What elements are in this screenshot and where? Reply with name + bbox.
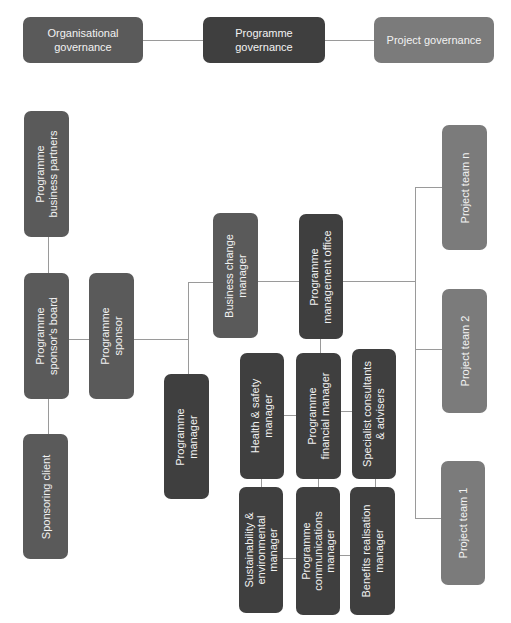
programme-sponsors-board-box: Programme sponsor's board (24, 273, 69, 399)
sponsoring-client-label: Sponsoring client (39, 454, 52, 538)
connector-programme-project-governance (325, 40, 374, 41)
connector-financial-comms (318, 479, 319, 487)
connector-comms-benefits (340, 555, 350, 556)
connector-board-sponsor (69, 339, 89, 340)
programme-governance-box: Programme governance (203, 17, 325, 63)
project-team-n-label: Project team n (458, 152, 471, 223)
programme-financial-manager-box: Programme financial manager (296, 353, 341, 479)
specialist-consultants-label: Specialist consultants & advisers (361, 361, 387, 467)
project-team-2-box: Project team 2 (442, 289, 487, 413)
connector-board-client (48, 399, 49, 434)
programme-management-office-label: Programme management office (308, 230, 334, 323)
programme-manager-label: Programme manager (174, 408, 200, 465)
connector-projects-vertical (415, 187, 416, 518)
programme-financial-manager-label: Programme financial manager (306, 373, 332, 460)
connector-team-n (415, 187, 442, 188)
programme-communications-manager-label: Programme communications manager (300, 511, 336, 590)
specialist-consultants-box: Specialist consultants & advisers (352, 349, 396, 479)
connector-sustainability-comms (283, 558, 296, 559)
connector-team-2 (415, 349, 442, 350)
sustainability-manager-label: Sustainability & environmental manager (243, 512, 279, 587)
project-governance-box: Project governance (374, 17, 494, 63)
project-governance-label: Project governance (383, 33, 486, 47)
programme-sponsor-label: Programme sponsor (99, 307, 125, 364)
organisational-governance-box: Organisational governance (23, 17, 143, 63)
project-team-1-label: Project team 1 (457, 488, 470, 559)
programme-management-office-box: Programme management office (299, 214, 343, 339)
project-team-n-box: Project team n (442, 125, 487, 250)
connector-hs-financial (284, 415, 296, 416)
business-change-manager-box: Business change manager (213, 213, 258, 338)
project-team-2-label: Project team 2 (458, 316, 471, 387)
organisational-governance-label: Organisational governance (23, 26, 143, 54)
connector-pmo-financial (320, 339, 321, 353)
programme-communications-manager-box: Programme communications manager (296, 487, 340, 615)
health-safety-manager-box: Health & safety manager (240, 353, 284, 479)
connector-hs-sustainability (261, 479, 262, 487)
connector-pmo-projects (343, 281, 415, 282)
programme-business-partners-box: Programme business partners (24, 111, 69, 237)
connector-team-1 (415, 518, 441, 519)
health-safety-manager-label: Health & safety manager (249, 379, 275, 454)
connector-financial-specialist (341, 411, 352, 412)
benefits-realisation-manager-box: Benefits realisation manager (350, 487, 395, 615)
business-change-manager-label: Business change manager (223, 234, 249, 318)
connector-trunk-bcm (188, 282, 213, 283)
sustainability-manager-box: Sustainability & environmental manager (239, 487, 283, 613)
programme-business-partners-label: Programme business partners (34, 131, 60, 218)
project-team-1-box: Project team 1 (441, 461, 485, 585)
programme-manager-box: Programme manager (164, 374, 209, 499)
connector-sponsor-trunk (134, 339, 188, 340)
programme-sponsors-board-label: Programme sponsor's board (34, 297, 60, 375)
connector-partners-board (48, 237, 49, 273)
benefits-realisation-manager-label: Benefits realisation manager (360, 505, 386, 598)
connector-bcm-pmo (258, 281, 299, 282)
connector-specialist-benefits (375, 479, 376, 487)
connector-trunk-vertical (188, 282, 189, 374)
connector-org-programme-governance (143, 40, 203, 41)
programme-sponsor-box: Programme sponsor (89, 273, 134, 399)
programme-governance-label: Programme governance (203, 26, 325, 54)
sponsoring-client-box: Sponsoring client (23, 434, 68, 559)
